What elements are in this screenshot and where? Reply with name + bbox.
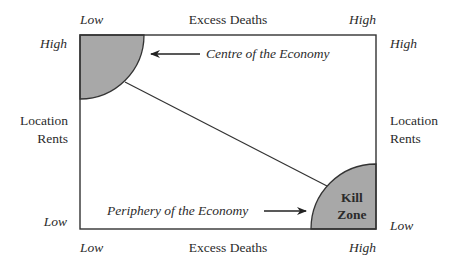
diagram-graphics	[0, 0, 455, 263]
x-axis-bottom-title: Excess Deaths	[168, 240, 288, 256]
kill-zone-label-line2: Zone	[330, 207, 374, 223]
x-axis-bottom-low: Low	[80, 240, 103, 256]
kill-zone-diagram: Low Excess Deaths High Low Excess Deaths…	[0, 0, 455, 263]
diagonal-connector-line	[125, 82, 327, 186]
x-axis-top-title: Excess Deaths	[168, 12, 288, 28]
y-axis-right-title-line2: Rents	[390, 131, 421, 147]
y-axis-left-low: Low	[20, 214, 67, 230]
y-axis-right-high: High	[390, 36, 417, 52]
y-axis-left-title-line1: Location	[0, 113, 68, 129]
centre-of-economy-label: Centre of the Economy	[206, 46, 330, 62]
x-axis-top-high: High	[349, 12, 376, 28]
kill-zone-label-line1: Kill	[330, 190, 374, 206]
centre-of-economy-region	[80, 35, 144, 99]
y-axis-left-title-line2: Rents	[0, 131, 68, 147]
y-axis-right-low: Low	[390, 218, 413, 234]
y-axis-right-title-line1: Location	[390, 113, 438, 129]
periphery-of-economy-label: Periphery of the Economy	[107, 203, 248, 219]
y-axis-left-high: High	[20, 36, 67, 52]
x-axis-bottom-high: High	[349, 240, 376, 256]
x-axis-top-low: Low	[80, 12, 103, 28]
